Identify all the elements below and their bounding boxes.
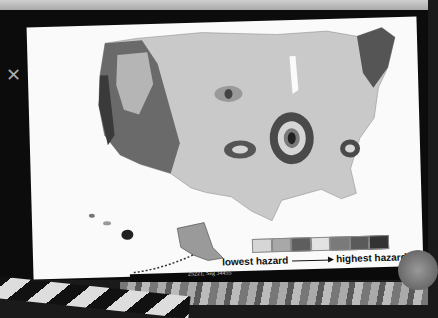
- arrow-right-icon: [292, 259, 332, 261]
- legend-swatch-1: [252, 238, 272, 253]
- legend-swatch-6: [349, 236, 369, 251]
- legend-swatch-3: [291, 237, 311, 252]
- legend-swatch-2: [271, 238, 291, 253]
- legend-low-label: lowest hazard: [222, 255, 288, 268]
- photo-caption: 25221, Seg 34455: [188, 269, 232, 276]
- x-mark-icon: ✕: [6, 64, 21, 85]
- legend-high-label: highest hazard: [336, 251, 407, 264]
- legend-swatch-5: [330, 236, 350, 251]
- rock: [398, 250, 438, 290]
- legend-swatch-7: [369, 235, 389, 250]
- legend-swatch-4: [310, 237, 330, 252]
